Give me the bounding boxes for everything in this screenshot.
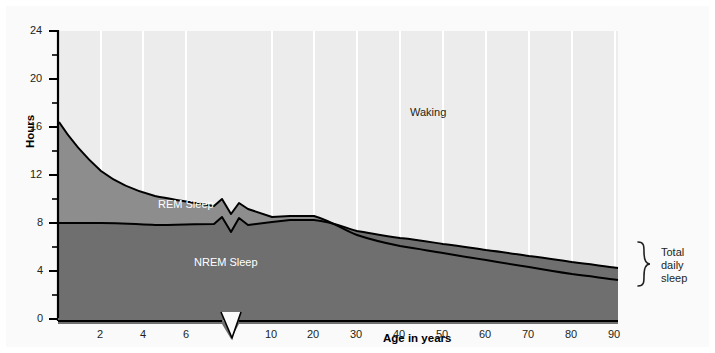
xtick-label-40: 40: [393, 328, 405, 340]
xtick-label-30: 30: [350, 328, 362, 340]
xtick-label-10: 10: [265, 328, 277, 340]
ytick-label-20: 20: [30, 72, 42, 84]
xtick-label-20: 20: [307, 328, 319, 340]
ytick-label-0: 0: [37, 312, 43, 324]
plot-area: [58, 31, 618, 320]
xtick-label-70: 70: [522, 328, 534, 340]
total-daily-sleep-label: Total daily sleep: [661, 246, 687, 285]
xtick-label-80: 80: [565, 328, 577, 340]
xtick-label-4: 4: [140, 328, 146, 340]
rem-sleep-label: REM Sleep: [158, 198, 214, 210]
xtick-label-50: 50: [436, 328, 448, 340]
ytick-label-4: 4: [37, 264, 43, 276]
chart-canvas: [0, 0, 715, 353]
xtick-label-6: 6: [183, 328, 189, 340]
total-daily-sleep-line-3: sleep: [661, 272, 687, 285]
xtick-label-90: 90: [608, 328, 620, 340]
ytick-label-24: 24: [30, 24, 42, 36]
sleep-hours-chart-figure: Hours Age in years 24 20 16 12 8 4 0 2 4…: [0, 0, 715, 353]
nrem-sleep-label: NREM Sleep: [194, 256, 258, 268]
ytick-label-8: 8: [37, 216, 43, 228]
total-daily-sleep-line-2: daily: [661, 259, 687, 272]
xtick-label-2: 2: [97, 328, 103, 340]
ytick-label-16: 16: [30, 120, 42, 132]
xtick-label-60: 60: [479, 328, 491, 340]
total-daily-sleep-line-1: Total: [661, 246, 687, 259]
waking-label: Waking: [410, 106, 446, 118]
ytick-label-12: 12: [30, 168, 42, 180]
